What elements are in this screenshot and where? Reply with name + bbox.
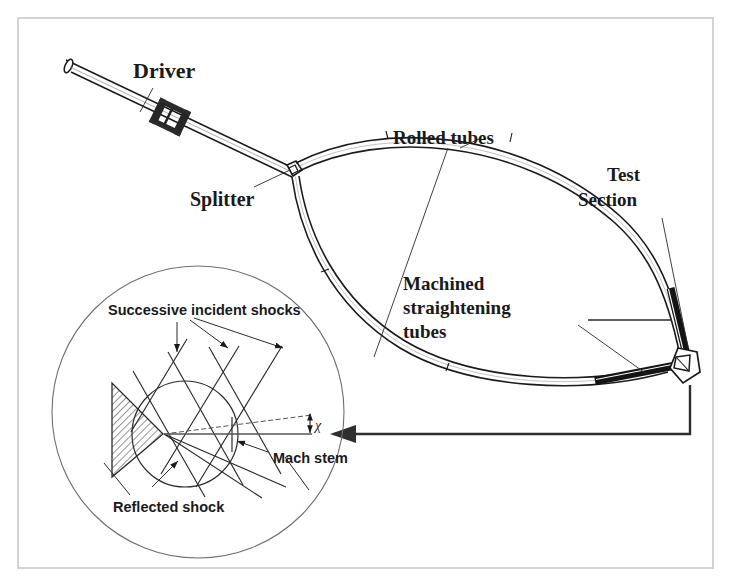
- label-reflected-shock: Reflected shock: [113, 499, 225, 515]
- incident-shocks-leader-2: [190, 320, 228, 348]
- shock-ray: [164, 434, 262, 498]
- incident-shock-line: [131, 339, 187, 432]
- tube-joint-tick: [510, 133, 512, 142]
- incident-shock-line: [196, 346, 282, 487]
- shock-ray: [164, 434, 286, 487]
- label-driver: Driver: [133, 58, 196, 83]
- hatched-wedge: [112, 383, 163, 477]
- driver-valve-flange-icon: [149, 97, 191, 136]
- detail-callout-arrow: [330, 385, 690, 443]
- machined-tubes-leader-lower: [578, 325, 648, 375]
- label-splitter: Splitter: [190, 188, 255, 211]
- incident-shock-line: [161, 346, 239, 474]
- label-rolled-tubes: Rolled tubes: [393, 127, 494, 148]
- splitter-junction: [287, 161, 302, 176]
- label-chi-angle: χ: [313, 418, 322, 433]
- driver-end-cap-icon: [62, 58, 74, 74]
- splitter-leader-line: [254, 170, 290, 187]
- figure-root: Driver Splitter Rolled tubes Test Sectio…: [0, 0, 731, 586]
- label-test-section-line1: Test: [607, 164, 641, 185]
- label-mach-stem: Mach stem: [273, 450, 348, 466]
- label-machined-line2: straightening: [403, 297, 511, 318]
- figure-canvas: Driver Splitter Rolled tubes Test Sectio…: [0, 0, 731, 586]
- label-machined-line1: Machined: [403, 273, 485, 294]
- label-machined-line3: tubes: [403, 321, 446, 342]
- label-successive-incident-shocks: Successive incident shocks: [108, 302, 301, 318]
- label-test-section-line2: Section: [578, 189, 638, 210]
- test-section-body: [670, 348, 700, 383]
